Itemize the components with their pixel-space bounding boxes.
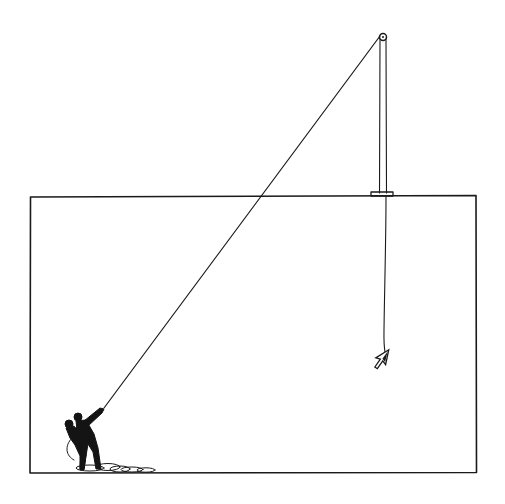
cursor-arrow-icon	[371, 346, 393, 371]
pulley-icon	[380, 34, 387, 194]
rope-coil	[76, 464, 155, 473]
hanging-rope	[384, 196, 386, 352]
hauling-rope	[104, 36, 380, 408]
hauling-figures	[65, 408, 104, 470]
frame	[30, 196, 477, 474]
rope-block	[371, 192, 393, 196]
rope-pulley-illustration	[0, 0, 505, 504]
